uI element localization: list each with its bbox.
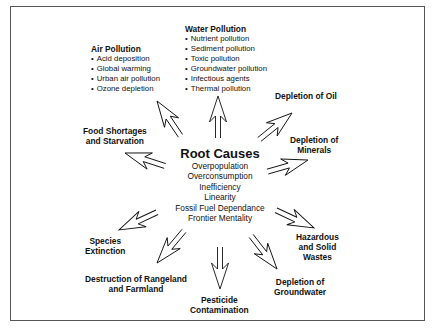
water-pollution-title: Water Pollution (185, 24, 267, 34)
depletion-minerals-label: Depletion of Minerals (290, 135, 338, 155)
pesticide-line2: Contamination (190, 305, 249, 315)
root-cause-item: Overpopulation (160, 161, 280, 171)
arrow-air-pollution-icon (150, 96, 188, 140)
list-item: Ozone depletion (91, 84, 160, 94)
arrow-species-extinction-icon (115, 205, 160, 238)
root-cause-item: Frontier Mentality (160, 213, 280, 223)
depletion-minerals-line2: Minerals (290, 145, 338, 155)
list-item: Infectious agents (185, 74, 267, 84)
list-item: Nutrient pollution (185, 34, 267, 44)
depletion-minerals-line1: Depletion of (290, 135, 338, 145)
root-cause-item: Linearity (160, 192, 280, 202)
list-item: Toxic pollution (185, 54, 267, 64)
hazardous-wastes-line2: and Solid (296, 242, 339, 252)
depletion-oil-label: Depletion of Oil (275, 91, 337, 101)
rangeland-line2: and Farmland (85, 284, 187, 294)
arrow-pesticide-icon (212, 247, 229, 289)
water-pollution-list: Nutrient pollution Sediment pollution To… (185, 34, 267, 94)
rangeland-line1: Destruction of Rangeland (85, 274, 187, 284)
list-item: Urban air pollution (91, 74, 160, 84)
root-cause-item: Fossil Fuel Dependance (160, 203, 280, 213)
food-shortages-line2: and Starvation (83, 136, 147, 146)
arrow-water-pollution-icon (210, 96, 227, 138)
root-causes-block: Root Causes Overpopulation Overconsumpti… (160, 147, 280, 223)
root-cause-item: Inefficiency (160, 182, 280, 192)
list-item: Sediment pollution (185, 44, 267, 54)
rangeland-label: Destruction of Rangeland and Farmland (85, 274, 187, 294)
groundwater-line1: Depletion of (274, 277, 326, 287)
water-pollution-block: Water Pollution Nutrient pollution Sedim… (185, 24, 267, 94)
groundwater-label: Depletion of Groundwater (274, 277, 326, 297)
species-extinction-line1: Species (85, 236, 125, 246)
arrow-rangeland-icon (150, 225, 190, 268)
groundwater-line2: Groundwater (274, 287, 326, 297)
hazardous-wastes-line1: Hazardous (296, 232, 339, 242)
root-cause-item: Overconsumption (160, 171, 280, 181)
arrow-groundwater-icon (244, 231, 283, 275)
hazardous-wastes-label: Hazardous and Solid Wastes (296, 232, 339, 262)
food-shortages-label: Food Shortages and Starvation (83, 126, 147, 146)
depletion-oil-text: Depletion of Oil (275, 91, 337, 101)
list-item: Thermal pollution (185, 84, 267, 94)
list-item: Acid deposition (91, 54, 160, 64)
pesticide-line1: Pesticide (190, 295, 249, 305)
species-extinction-label: Species Extinction (85, 236, 125, 256)
hazardous-wastes-line3: Wastes (296, 252, 339, 262)
root-causes-title: Root Causes (160, 147, 280, 161)
pesticide-label: Pesticide Contamination (190, 295, 249, 315)
species-extinction-line2: Extinction (85, 246, 125, 256)
list-item: Global warming (91, 64, 160, 74)
air-pollution-title: Air Pollution (91, 44, 160, 54)
air-pollution-list: Acid deposition Global warming Urban air… (91, 54, 160, 94)
food-shortages-line1: Food Shortages (83, 126, 147, 136)
list-item: Groundwater pollution (185, 64, 267, 74)
air-pollution-block: Air Pollution Acid deposition Global war… (91, 44, 160, 94)
